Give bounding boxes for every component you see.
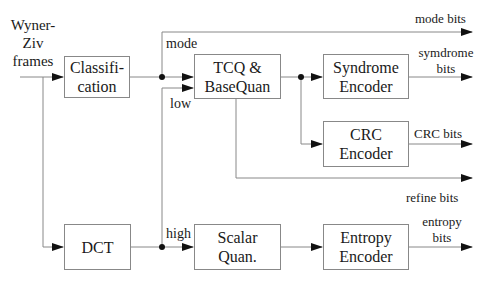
input-label-line: Wyner- xyxy=(5,16,61,34)
scalar-quan-block: ScalarQuan. xyxy=(194,224,281,270)
output-label-line: symdrome xyxy=(413,45,479,61)
output-label-line: bits xyxy=(413,61,479,77)
entropy-bits-label: entropy bits xyxy=(413,214,471,246)
tcq-basequan-block: TCQ &BaseQuan xyxy=(194,54,281,99)
junction-dot xyxy=(298,74,304,80)
syndrome-bits-label: symdrome bits xyxy=(413,45,479,77)
high-label: high xyxy=(166,226,191,242)
block-label: BaseQuan xyxy=(205,77,271,96)
syndrome-encoder-block: SyndromeEncoder xyxy=(323,54,409,99)
block-label: cation xyxy=(70,77,124,96)
mode-bits-label: mode bits xyxy=(415,11,466,27)
block-label: Scalar xyxy=(218,228,258,247)
tcq-to-crc-arrow xyxy=(301,77,322,144)
block-label: Encoder xyxy=(339,144,392,163)
input-label-line: Ziv xyxy=(5,34,61,52)
input-label-line: frames xyxy=(5,52,61,70)
dct-block: DCT xyxy=(64,224,131,270)
output-label-line: entropy xyxy=(413,214,471,230)
classification-block: Classifi-cation xyxy=(64,56,130,98)
refine-bits-label: refine bits xyxy=(406,190,458,206)
block-label: Encoder xyxy=(339,247,392,266)
mode-label: mode xyxy=(166,36,197,52)
block-label: DCT xyxy=(82,238,114,257)
block-label: Syndrome xyxy=(333,58,399,77)
input-to-dct-arrow xyxy=(43,77,63,247)
junction-dot xyxy=(159,244,165,250)
crc-bits-label: CRC bits xyxy=(414,126,462,142)
block-label: Classifi- xyxy=(70,58,124,77)
block-label: CRC xyxy=(339,125,392,144)
crc-encoder-block: CRCEncoder xyxy=(323,121,409,167)
entropy-encoder-block: EntropyEncoder xyxy=(323,224,409,270)
block-label: Entropy xyxy=(339,228,392,247)
output-label-line: bits xyxy=(413,230,471,246)
block-label: Quan. xyxy=(218,247,258,266)
block-label: Encoder xyxy=(333,77,399,96)
junction-dot xyxy=(159,74,165,80)
low-label: low xyxy=(170,96,191,112)
block-label: TCQ & xyxy=(205,58,271,77)
input-label: Wyner- Ziv frames xyxy=(5,16,61,70)
